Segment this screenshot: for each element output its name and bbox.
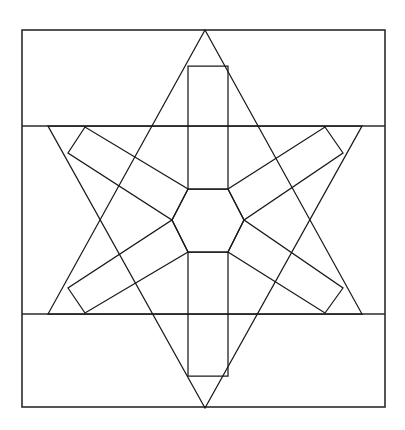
arm-northwest — [68, 127, 188, 220]
drawing-canvas: Hexagram star geometric line drawing A s… — [0, 0, 405, 430]
arm-southwest — [68, 220, 188, 313]
center-hexagon — [172, 189, 244, 252]
downward-triangle — [48, 126, 362, 408]
arm-northeast — [228, 127, 343, 220]
arm-north — [188, 66, 228, 189]
outer-rectangle — [22, 30, 385, 407]
geometric-figure: Hexagram star geometric line drawing A s… — [0, 0, 405, 430]
arm-southeast — [228, 220, 343, 313]
